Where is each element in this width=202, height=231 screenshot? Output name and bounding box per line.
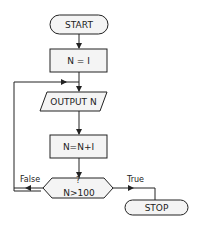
stop-label: STOP (145, 203, 169, 213)
true-branch-line (133, 188, 155, 200)
increment-label: N=N+I (63, 142, 94, 152)
decision-label: N>100 (63, 188, 95, 198)
flowchart: START N = I OUTPUT N N=N+I ? N>100 False… (0, 0, 202, 231)
decision-question-mark: ? (76, 176, 80, 185)
stop-terminator: STOP (125, 200, 188, 215)
true-label: True (126, 175, 144, 184)
start-terminator: START (50, 15, 108, 34)
init-process-box: N = I (50, 49, 107, 72)
increment-process-box: N=N+I (50, 135, 107, 158)
init-label: N = I (67, 56, 90, 66)
false-label: False (20, 175, 40, 184)
output-io-shape: OUTPUT N (40, 92, 107, 111)
output-label: OUTPUT N (50, 97, 96, 107)
decision-shape: ? N>100 (43, 176, 113, 198)
start-label: START (65, 20, 93, 30)
